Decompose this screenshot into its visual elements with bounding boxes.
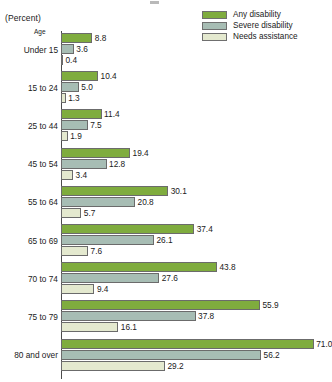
bar-any xyxy=(61,300,260,310)
category-label: 80 and over xyxy=(0,350,58,360)
bar-row: 19.4 xyxy=(61,148,321,158)
top-crop-artifact xyxy=(150,1,159,4)
legend-item-any: Any disability xyxy=(202,10,324,20)
bar-value-label: 19.4 xyxy=(133,148,149,158)
bar-severe xyxy=(61,273,159,283)
bar-value-label: 55.9 xyxy=(263,300,279,310)
bar-row: 10.4 xyxy=(61,71,321,81)
bar-severe xyxy=(61,350,261,360)
bar-value-label: 5.7 xyxy=(84,208,96,218)
bar-assist xyxy=(61,208,81,218)
bar-value-label: 7.5 xyxy=(90,120,102,130)
bar-value-label: 27.6 xyxy=(162,273,178,283)
bar-row: 1.9 xyxy=(61,131,321,141)
legend-label-severe: Severe disability xyxy=(233,21,293,31)
bar-row: 8.8 xyxy=(61,33,321,43)
bar-value-label: 0.4 xyxy=(66,55,78,65)
bar-value-label: 37.8 xyxy=(198,311,214,321)
bar-row: 71.0 xyxy=(61,339,321,349)
bar-assist xyxy=(61,131,68,141)
bar-assist xyxy=(61,93,66,103)
bar-value-label: 3.4 xyxy=(76,170,88,180)
legend-swatch-severe xyxy=(202,22,227,30)
bar-row: 9.4 xyxy=(61,284,321,294)
bar-value-label: 12.8 xyxy=(109,159,125,169)
axis-unit-label: (Percent) xyxy=(5,13,41,23)
bar-severe xyxy=(61,159,107,169)
bar-group: 65 to 6937.426.17.6 xyxy=(0,224,327,256)
bar-value-label: 16.1 xyxy=(121,322,137,332)
bar-value-label: 9.4 xyxy=(97,284,109,294)
bar-group: 70 to 7443.827.69.4 xyxy=(0,262,327,294)
category-label: 45 to 54 xyxy=(0,159,58,169)
bar-value-label: 8.8 xyxy=(95,33,107,43)
bar-value-label: 3.6 xyxy=(76,44,88,54)
bar-row: 56.2 xyxy=(61,350,321,360)
bar-value-label: 7.6 xyxy=(91,246,103,256)
bar-any xyxy=(61,224,194,234)
bar-row: 7.5 xyxy=(61,120,321,130)
bar-severe xyxy=(61,44,74,54)
bar-value-label: 10.4 xyxy=(101,71,117,81)
bar-group: 55 to 6430.120.85.7 xyxy=(0,186,327,218)
bar-row: 1.3 xyxy=(61,93,321,103)
bar-severe xyxy=(61,311,196,321)
bar-row: 7.6 xyxy=(61,246,321,256)
bar-row: 11.4 xyxy=(61,109,321,119)
bar-group: Under 158.83.60.4 xyxy=(0,33,327,65)
bar-assist xyxy=(61,55,63,65)
bar-value-label: 1.9 xyxy=(70,131,82,141)
bar-row: 20.8 xyxy=(61,197,321,207)
bar-row: 0.4 xyxy=(61,55,321,65)
bar-row: 43.8 xyxy=(61,262,321,272)
category-label: Under 15 xyxy=(0,45,58,55)
bar-row: 37.4 xyxy=(61,224,321,234)
legend-label-any: Any disability xyxy=(233,10,281,20)
bar-any xyxy=(61,262,217,272)
category-label: 15 to 24 xyxy=(0,83,58,93)
category-label: 75 to 79 xyxy=(0,312,58,322)
bar-any xyxy=(61,109,102,119)
bar-severe xyxy=(61,197,135,207)
bar-row: 37.8 xyxy=(61,311,321,321)
bar-severe xyxy=(61,235,154,245)
category-label: 65 to 69 xyxy=(0,236,58,246)
bar-row: 30.1 xyxy=(61,186,321,196)
bar-value-label: 43.8 xyxy=(219,262,235,272)
bar-value-label: 29.2 xyxy=(167,361,183,371)
bar-assist xyxy=(61,361,165,371)
bar-row: 55.9 xyxy=(61,300,321,310)
bar-any xyxy=(61,186,168,196)
bar-group: 75 to 7955.937.816.1 xyxy=(0,300,327,332)
bar-any xyxy=(61,71,98,81)
bar-value-label: 71.0 xyxy=(316,339,332,349)
bar-row: 12.8 xyxy=(61,159,321,169)
bar-group: 80 and over71.056.229.2 xyxy=(0,339,327,371)
category-label: 25 to 44 xyxy=(0,121,58,131)
bar-assist xyxy=(61,246,88,256)
bar-severe xyxy=(61,82,79,92)
bar-row: 26.1 xyxy=(61,235,321,245)
bar-any xyxy=(61,33,92,43)
bar-assist xyxy=(61,284,94,294)
bar-group: 45 to 5419.412.83.4 xyxy=(0,148,327,180)
bar-value-label: 1.3 xyxy=(68,93,80,103)
bar-value-label: 37.4 xyxy=(197,224,213,234)
plot-area: Under 158.83.60.415 to 2410.45.01.325 to… xyxy=(0,31,327,379)
bar-value-label: 20.8 xyxy=(138,197,154,207)
bar-row: 5.7 xyxy=(61,208,321,218)
bar-value-label: 11.4 xyxy=(104,109,120,119)
category-label: 70 to 74 xyxy=(0,274,58,284)
bar-value-label: 5.0 xyxy=(81,82,93,92)
bar-group: 15 to 2410.45.01.3 xyxy=(0,71,327,103)
legend-item-severe: Severe disability xyxy=(202,21,324,31)
bar-row: 16.1 xyxy=(61,322,321,332)
bar-value-label: 26.1 xyxy=(156,235,172,245)
bar-any xyxy=(61,148,130,158)
bar-any xyxy=(61,339,314,349)
bar-assist xyxy=(61,170,73,180)
legend-swatch-any xyxy=(202,11,227,19)
bar-group: 25 to 4411.47.51.9 xyxy=(0,109,327,141)
category-label: 55 to 64 xyxy=(0,197,58,207)
